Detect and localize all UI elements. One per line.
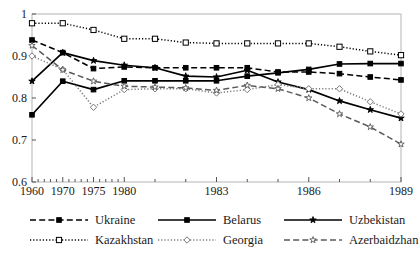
series-line xyxy=(32,23,401,55)
data-point-marker xyxy=(91,66,96,71)
data-point-marker xyxy=(244,86,250,92)
data-point-marker xyxy=(336,98,342,104)
data-point-marker xyxy=(152,36,157,41)
data-point-marker xyxy=(367,106,373,112)
x-tick-label: 1980 xyxy=(112,184,136,198)
legend-item-ukraine[interactable]: Ukraine xyxy=(28,213,156,227)
data-point-marker xyxy=(183,40,188,45)
series-georgia xyxy=(29,53,404,117)
data-point-marker xyxy=(29,53,35,59)
y-tick-label: 0.7 xyxy=(12,133,27,147)
data-point-marker xyxy=(56,237,61,242)
data-point-marker xyxy=(336,111,342,117)
data-point-marker xyxy=(90,104,96,110)
legend-item-azerbaidzhan[interactable]: Azerbaidzhan xyxy=(282,233,410,247)
plot-frame xyxy=(32,14,401,182)
data-point-marker xyxy=(91,87,96,92)
legend-label-ukraine: Ukraine xyxy=(95,214,135,227)
x-tick-label: 1970 xyxy=(51,184,75,198)
legend-label-belarus: Belarus xyxy=(223,214,261,227)
data-point-marker xyxy=(368,49,373,54)
x-tick-label: 1983 xyxy=(205,184,229,198)
data-point-marker xyxy=(90,78,96,84)
data-point-marker xyxy=(275,85,281,91)
data-point-marker xyxy=(275,41,280,46)
legend-item-belarus[interactable]: Belarus xyxy=(156,213,282,227)
data-point-marker xyxy=(276,71,281,76)
plot-area: 10.90.80.70.6196019701975198019831986198… xyxy=(0,0,419,210)
data-point-marker xyxy=(245,41,250,46)
legend-sample-kazakhstan xyxy=(28,233,90,247)
data-point-marker xyxy=(310,217,316,223)
data-point-marker xyxy=(337,71,342,76)
chart-legend: Ukraine Belarus Uzbekistan Kazakhstan Ge… xyxy=(28,210,410,250)
x-tick-label: 1989 xyxy=(389,184,413,198)
data-point-marker xyxy=(60,79,65,84)
data-point-marker xyxy=(184,237,190,243)
data-point-marker xyxy=(90,57,96,63)
data-point-marker xyxy=(398,141,404,147)
series-uzbekistan xyxy=(29,49,404,121)
data-point-marker xyxy=(60,21,65,26)
legend-sample-georgia xyxy=(156,233,218,247)
series-line xyxy=(32,53,401,119)
data-point-marker xyxy=(183,65,188,70)
line-chart-figure: 10.90.80.70.6196019701975198019831986198… xyxy=(0,0,419,253)
y-tick-label: 1 xyxy=(21,7,27,21)
x-tick-label: 1975 xyxy=(82,184,106,198)
legend-sample-uzbekistan xyxy=(282,213,344,227)
data-point-marker xyxy=(29,21,34,26)
series-kazakhstan xyxy=(29,21,403,58)
legend-label-uzbekistan: Uzbekistan xyxy=(349,214,405,227)
data-point-marker xyxy=(244,82,250,88)
data-point-marker xyxy=(336,86,342,92)
data-point-marker xyxy=(214,41,219,46)
data-point-marker xyxy=(398,111,404,117)
data-point-marker xyxy=(91,27,96,32)
legend-sample-ukraine xyxy=(28,213,90,227)
data-point-marker xyxy=(185,218,190,223)
data-point-marker xyxy=(399,61,404,66)
data-point-marker xyxy=(214,65,219,70)
data-point-marker xyxy=(57,218,62,223)
data-point-marker xyxy=(337,62,342,67)
data-point-marker xyxy=(306,41,311,46)
x-tick-label: 1986 xyxy=(297,184,321,198)
legend-item-uzbekistan[interactable]: Uzbekistan xyxy=(282,213,410,227)
legend-sample-belarus xyxy=(156,213,218,227)
data-point-marker xyxy=(367,99,373,105)
data-point-marker xyxy=(368,61,373,66)
legend-item-kazakhstan[interactable]: Kazakhstan xyxy=(28,233,156,247)
data-point-marker xyxy=(306,67,311,72)
legend-label-kazakhstan: Kazakhstan xyxy=(95,234,153,247)
data-point-marker xyxy=(245,74,250,79)
legend-label-georgia: Georgia xyxy=(223,234,263,247)
data-point-marker xyxy=(398,53,403,58)
data-point-marker xyxy=(30,113,35,118)
legend-sample-azerbaidzhan xyxy=(282,233,344,247)
data-point-marker xyxy=(310,237,316,243)
data-point-marker xyxy=(60,66,66,72)
data-point-marker xyxy=(306,95,312,101)
y-tick-label: 0.8 xyxy=(12,91,27,105)
data-point-marker xyxy=(399,78,404,83)
legend-item-georgia[interactable]: Georgia xyxy=(156,233,282,247)
x-tick-label: 1960 xyxy=(20,184,44,198)
data-point-marker xyxy=(368,75,373,80)
data-point-marker xyxy=(122,36,127,41)
legend-label-azerbaidzhan: Azerbaidzhan xyxy=(349,234,418,247)
data-point-marker xyxy=(337,44,342,49)
y-tick-label: 0.9 xyxy=(12,49,27,63)
